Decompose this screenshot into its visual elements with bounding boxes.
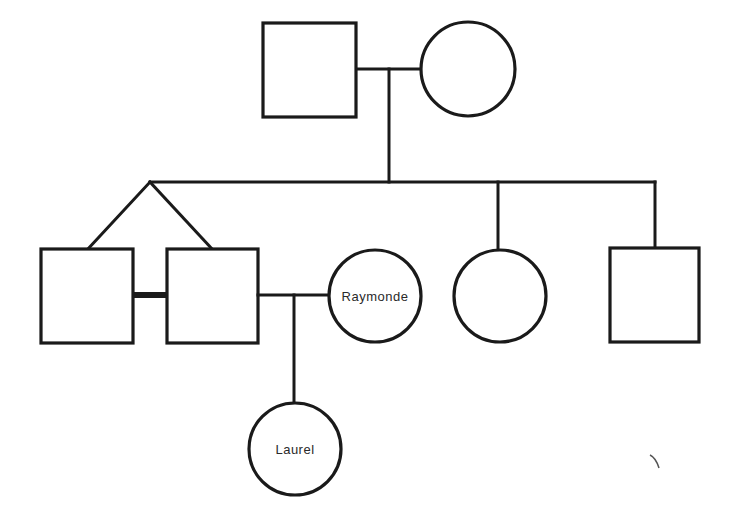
pedigree-diagram: Raymonde Laurel [0, 0, 739, 521]
twin-line-2 [150, 182, 212, 249]
raymonde-label: Raymonde [342, 289, 409, 304]
laurel-label: Laurel [275, 442, 314, 457]
brother-square [610, 248, 699, 342]
grandmother-circle [421, 22, 515, 116]
pedigree-svg: Raymonde Laurel [0, 0, 739, 521]
stray-pen-mark [650, 455, 659, 468]
twin-line-1 [88, 182, 150, 249]
twin-2-square [167, 249, 258, 343]
twin-1-square [41, 249, 133, 343]
grandfather-square [263, 23, 356, 117]
sister-circle [454, 250, 546, 342]
